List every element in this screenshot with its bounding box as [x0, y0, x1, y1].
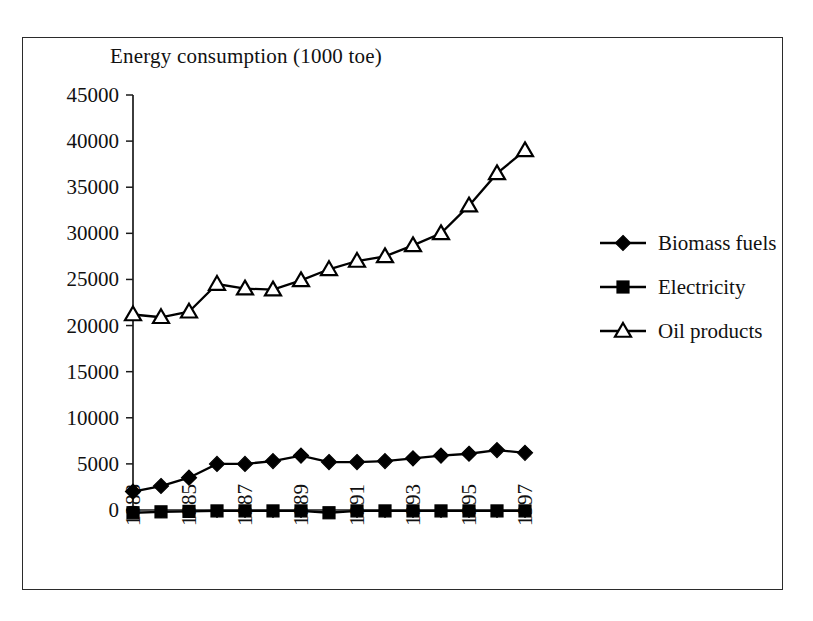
data-point-marker	[518, 445, 533, 460]
figure-container: Energy consumption (1000 toe) 0500010000…	[0, 0, 813, 621]
data-point-marker	[323, 507, 335, 519]
data-point-marker	[406, 451, 421, 466]
data-point-marker	[405, 237, 421, 251]
data-point-marker	[155, 506, 167, 518]
data-point-marker	[127, 507, 139, 519]
data-point-marker	[517, 142, 533, 156]
y-axis: 0500010000150002000025000300003500040000…	[67, 83, 134, 522]
data-point-marker	[379, 505, 391, 517]
data-point-marker	[154, 479, 169, 494]
data-point-marker	[491, 505, 503, 517]
legend-item-label: Electricity	[658, 275, 746, 299]
legend-item-label: Oil products	[658, 319, 762, 343]
data-point-marker	[266, 454, 281, 469]
data-point-marker	[378, 454, 393, 469]
data-point-marker	[239, 505, 251, 517]
data-point-marker	[322, 455, 337, 470]
data-point-marker	[238, 456, 253, 471]
y-axis-tick-label: 0	[109, 498, 120, 522]
y-axis-tick-label: 25000	[67, 267, 120, 291]
data-point-marker	[125, 306, 141, 320]
data-point-marker	[434, 448, 449, 463]
y-axis-tick-label: 45000	[67, 83, 120, 107]
data-point-marker	[350, 455, 365, 470]
series-line	[133, 150, 525, 317]
y-axis-tick-label: 15000	[67, 360, 120, 384]
legend-item-oil-products: Oil products	[600, 319, 762, 343]
legend-marker-icon	[617, 281, 629, 293]
y-axis-tick-label: 30000	[67, 221, 120, 245]
data-point-marker	[407, 505, 419, 517]
data-point-marker	[209, 276, 225, 290]
data-point-marker	[294, 448, 309, 463]
y-axis-tick-label: 10000	[67, 406, 120, 430]
legend-item-electricity: Electricity	[600, 275, 746, 299]
data-point-marker	[267, 505, 279, 517]
legend-item-biomass-fuels: Biomass fuels	[600, 231, 776, 255]
y-axis-tick-label: 40000	[67, 129, 120, 153]
series-oil-products	[125, 142, 533, 323]
data-point-marker	[295, 505, 307, 517]
data-point-marker	[210, 456, 225, 471]
data-point-marker	[519, 505, 531, 517]
legend: Biomass fuelsElectricityOil products	[600, 231, 776, 343]
y-axis-tick-label: 20000	[67, 314, 120, 338]
series-layer	[125, 142, 533, 518]
data-point-marker	[462, 446, 477, 461]
chart-plot: 0500010000150002000025000300003500040000…	[0, 0, 813, 621]
data-point-marker	[183, 505, 195, 517]
data-point-marker	[182, 470, 197, 485]
data-point-marker	[490, 443, 505, 458]
data-point-marker	[211, 505, 223, 517]
y-axis-tick-label: 5000	[77, 452, 119, 476]
y-axis-tick-label: 35000	[67, 175, 120, 199]
legend-marker-icon	[616, 236, 631, 251]
legend-item-label: Biomass fuels	[658, 231, 776, 255]
data-point-marker	[435, 505, 447, 517]
data-point-marker	[463, 505, 475, 517]
data-point-marker	[351, 505, 363, 517]
series-electricity	[127, 505, 531, 519]
